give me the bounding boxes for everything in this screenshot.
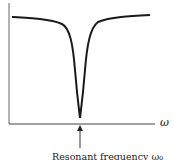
x-axis-label: ω	[160, 116, 169, 129]
resonance-plot	[0, 0, 174, 160]
resonance-curve	[12, 15, 150, 118]
resonant-frequency-label: Resonant frequency ω₀	[52, 151, 163, 160]
resonance-arrow-head	[77, 125, 83, 131]
